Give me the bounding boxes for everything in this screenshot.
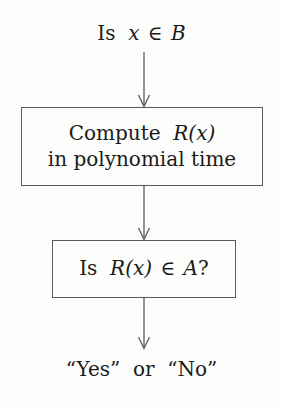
output-answer-label: “Yes” or “No” [0, 358, 283, 381]
answer-connector: or [133, 357, 155, 381]
answer-no: “No” [167, 357, 217, 381]
answer-yes: “Yes” [66, 357, 121, 381]
arrow-decide-to-answer [0, 0, 283, 404]
flowchart-diagram: Is x ∈ B Compute R(x) in polynomial time… [0, 0, 283, 404]
